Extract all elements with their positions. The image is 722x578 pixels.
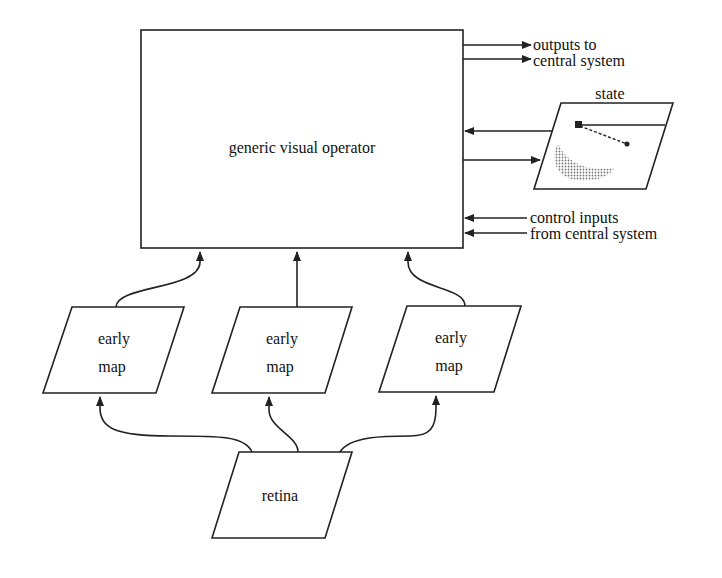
retina-label: retina	[262, 487, 298, 504]
operator-label: generic visual operator	[229, 139, 376, 157]
controls-label-line2: from central system	[530, 225, 658, 243]
retina-map: retina	[212, 452, 352, 538]
svg-text:map: map	[266, 358, 294, 376]
diagram-canvas: generic visual operator outputs to centr…	[0, 0, 722, 578]
svg-text:early: early	[266, 330, 298, 348]
generic-visual-operator-box: generic visual operator	[141, 30, 463, 248]
outputs-label-line2: central system	[533, 52, 626, 70]
state-label: state	[595, 85, 624, 102]
svg-text:map: map	[435, 357, 463, 375]
svg-text:early: early	[98, 330, 130, 348]
svg-text:map: map	[98, 358, 126, 376]
outputs-arrows	[463, 45, 531, 59]
svg-text:early: early	[435, 329, 467, 347]
state-dot-marker	[625, 142, 630, 147]
state-map	[534, 103, 673, 189]
early-map-right: early map	[379, 306, 521, 392]
early-map-middle: early map	[212, 307, 352, 393]
early-map-left: early map	[43, 307, 184, 393]
